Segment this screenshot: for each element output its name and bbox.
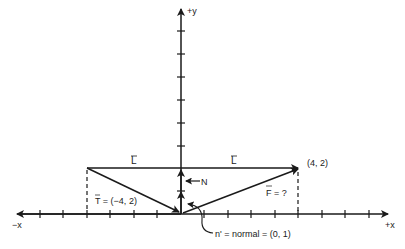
x-axis-positive-label: +x [385,220,395,230]
vector-L: L L [87,155,298,168]
vector-T-value: = (−4, 2) [103,196,137,206]
svg-text:T = (−4, 2): T = (−4, 2) [95,196,137,206]
y-axis: +y [177,6,197,214]
vector-reflection-diagram: +x −x +y L L T = (−4, 2) [0,0,405,249]
svg-text:F = ?: F = ? [266,188,287,198]
vector-F-label: F [266,188,272,198]
vector-F-value: = ? [274,188,287,198]
vector-N-label: N [201,177,208,187]
point-label: (4, 2) [307,158,328,168]
vector-L-right-label: L [231,155,237,166]
vector-T-label: T [95,196,101,206]
normal-annotation: n' = normal = (0, 1) [188,204,291,239]
normal-annotation-label: n' = normal = (0, 1) [215,229,291,239]
y-axis-positive-label: +y [187,6,197,16]
x-axis-negative-label: −x [12,220,22,230]
vector-N: N [181,170,208,214]
vector-L-left-label: L [131,155,137,166]
x-axis: +x −x [12,210,395,230]
vector-T: T = (−4, 2) [87,168,179,212]
